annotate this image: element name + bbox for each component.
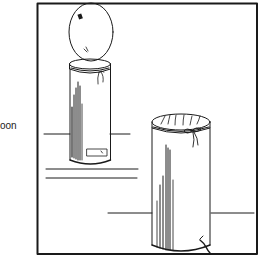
balloon-icon xyxy=(69,3,113,61)
illustration xyxy=(0,0,260,258)
left-container-icon xyxy=(70,59,111,164)
right-container-icon xyxy=(152,114,210,253)
